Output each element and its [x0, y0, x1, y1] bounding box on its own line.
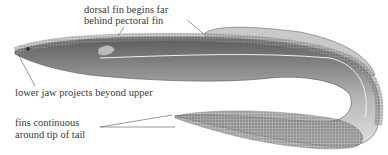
label-fins-line1: fins continuous — [15, 117, 79, 128]
label-dorsal-fin-line2: behind pectoral fin — [84, 15, 163, 26]
label-dorsal-fin-line1: dorsal fin begins far — [84, 4, 168, 15]
fins-leader-line-1 — [100, 115, 172, 127]
dorsal-leader-line — [187, 20, 204, 34]
label-fins-line2: around tip of tail — [15, 129, 85, 140]
label-lower-jaw: lower jaw projects beyond upper — [15, 87, 153, 98]
eye — [26, 47, 30, 51]
tail — [175, 111, 363, 149]
eel-diagram: dorsal fin begins far behind pectoral fi… — [0, 0, 388, 155]
